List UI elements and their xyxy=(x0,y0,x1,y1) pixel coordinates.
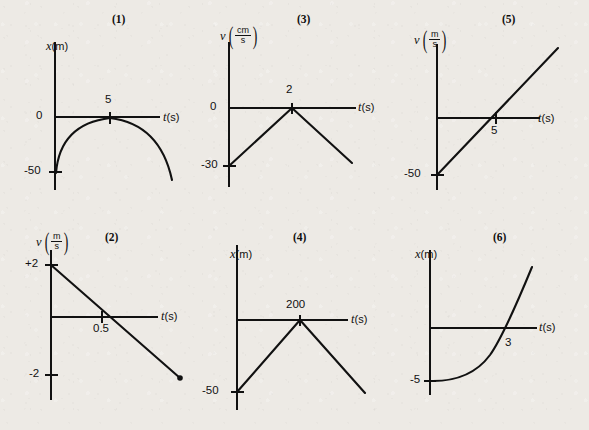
right-paren-3: ) xyxy=(253,26,258,46)
x-axis-unit-2: (s) xyxy=(164,310,177,322)
panel-number-5: (5) xyxy=(502,13,515,25)
left-paren-2: ( xyxy=(44,232,49,252)
y-tick-label-2: -2 xyxy=(29,368,39,380)
y-axis-label-1: x(m) xyxy=(46,40,68,53)
x-tick-label-3: 2 xyxy=(286,84,292,96)
x-axis-unit-5: (s) xyxy=(541,112,554,124)
x-axis-label-2: t(s) xyxy=(161,310,177,323)
right-paren-2: ) xyxy=(64,232,69,252)
left-paren-3: ( xyxy=(228,26,233,46)
left-paren-5: ( xyxy=(422,30,427,50)
x-axis-unit-4: (s) xyxy=(354,313,367,325)
y-axis-quantity-3: v xyxy=(220,30,226,43)
origin-tick-label-3: 0 xyxy=(210,101,216,113)
y-axis-label-4: x(m) xyxy=(230,248,252,261)
panel-number-3: (3) xyxy=(297,13,310,25)
x-axis-label-3: t(s) xyxy=(358,101,374,114)
panel-number-4: (4) xyxy=(293,231,306,243)
curve-inverted-v-4 xyxy=(237,320,365,393)
graph-panel-3: (3) v ( cm s ) t(s) 0 2 -30 xyxy=(196,0,392,215)
graph-panel-2: (2) v ( m s ) t(s) +2 0.5 -2 xyxy=(0,215,196,430)
panel-number-1: (1) xyxy=(112,13,125,25)
x-tick-label-2: 0.5 xyxy=(93,323,109,335)
y-unit-denominator-2: s xyxy=(51,241,63,251)
y-tick-label-5: -50 xyxy=(404,168,421,180)
origin-tick-label-1: 0 xyxy=(36,110,42,122)
y-unit-denominator-5: s xyxy=(429,39,441,49)
x-tick-label-5: 5 xyxy=(491,125,497,137)
x-tick-label-4: 200 xyxy=(286,299,305,311)
y-tick-label-4: -50 xyxy=(202,385,219,397)
endpoint-dot-2 xyxy=(177,375,183,381)
x-axis-label-1: t(s) xyxy=(163,111,179,124)
x-axis-label-4: t(s) xyxy=(351,313,367,326)
curve-inverted-v-3 xyxy=(229,108,352,166)
curve-upward-6 xyxy=(430,267,532,381)
y-unit-numerator-2: m xyxy=(52,232,62,241)
y-axis-label-2: v ( m s ) xyxy=(36,232,71,252)
right-paren-5: ) xyxy=(442,30,447,50)
graph-panel-6: (6) x(m) t(s) 3 -5 xyxy=(392,215,589,430)
graph-panel-4: (4) x(m) t(s) 200 -50 xyxy=(196,215,392,430)
x-axis-unit-1: (s) xyxy=(166,111,179,123)
x-axis-unit-3: (s) xyxy=(361,101,374,113)
x-axis-label-5: t(s) xyxy=(538,112,554,125)
y-axis-label-3: v ( cm s ) xyxy=(220,26,259,46)
y-axis-quantity-2: v xyxy=(36,236,42,249)
graph-panel-5: (5) v ( m s ) t(s) 5 -50 xyxy=(392,0,589,215)
y-tick-label-1: -50 xyxy=(24,165,41,177)
x-axis-label-6: t(s) xyxy=(539,321,555,334)
y-axis-unit-1: (m) xyxy=(52,40,69,52)
y-tick-top-label-2: +2 xyxy=(25,258,38,270)
y-unit-numerator-3: cm xyxy=(236,26,250,35)
panel-number-6: (6) xyxy=(493,231,506,243)
y-tick-label-3: -30 xyxy=(201,159,218,171)
panel-number-2: (2) xyxy=(105,231,118,243)
y-axis-label-5: v ( m s ) xyxy=(414,30,449,50)
x-tick-label-6: 3 xyxy=(505,337,511,349)
y-axis-unit-6: (m) xyxy=(421,248,438,260)
y-axis-quantity-5: v xyxy=(414,34,420,47)
y-unit-denominator-3: s xyxy=(235,35,251,45)
y-axis-unit-4: (m) xyxy=(236,248,253,260)
x-axis-unit-6: (s) xyxy=(542,321,555,333)
curve-parabola-1 xyxy=(56,118,172,180)
y-unit-numerator-5: m xyxy=(430,30,440,39)
graph-svg-1 xyxy=(0,0,196,215)
y-tick-label-6: -5 xyxy=(410,374,420,386)
x-tick-label-1: 5 xyxy=(105,94,111,106)
y-axis-label-6: x(m) xyxy=(415,248,437,261)
graph-panel-1: (1) x(m) t(s) 0 5 -50 xyxy=(0,0,196,215)
